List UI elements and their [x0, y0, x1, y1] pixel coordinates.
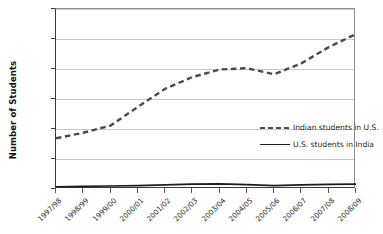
legend-label-us-students: U.S. students in India: [293, 140, 374, 149]
legend-label-indian-students: Indian students in U.S.: [293, 123, 379, 132]
legend-item-indian-students: Indian students in U.S.: [260, 119, 383, 136]
chart-legend: Indian students in U.S. U.S. students in…: [260, 119, 383, 153]
x-axis-tick-label: 2000/01: [118, 196, 146, 224]
x-axis-tick-label: 1999/00: [90, 196, 118, 224]
x-axis-tick-label: 2002/03: [172, 196, 200, 224]
series-layer: [56, 9, 356, 189]
plot-area: Indian students in U.S. U.S. students in…: [55, 8, 355, 188]
x-axis-tick-label: 2003/04: [199, 196, 227, 224]
x-axis-tick-label: 2006/07: [281, 196, 309, 224]
solid-line-icon: [260, 140, 290, 150]
y-axis-title: Number of Students: [8, 45, 18, 175]
x-axis-tick-label: 2007/08: [309, 196, 337, 224]
series-us-students-in-india: [56, 184, 356, 187]
x-axis-tick-label: 2008/09: [336, 196, 364, 224]
x-axis-tick-label: 1997/98: [36, 196, 64, 224]
x-axis-tick-label: 2004/05: [227, 196, 255, 224]
legend-item-us-students: U.S. students in India: [260, 136, 383, 153]
x-axis-tick-label: 2005/06: [254, 196, 282, 224]
x-axis-tick-label: 1998/99: [63, 196, 91, 224]
x-axis-tick-label: 2001/02: [145, 196, 173, 224]
dashed-line-icon: [260, 123, 290, 133]
